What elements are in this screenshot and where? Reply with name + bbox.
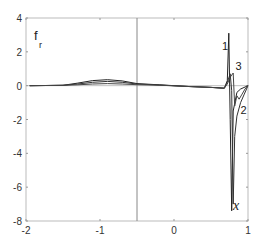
x-axis-label: x bbox=[232, 198, 240, 213]
x-tick-label: 1 bbox=[245, 225, 251, 236]
curve-label-1: 1 bbox=[222, 40, 228, 52]
y-tick-label: 2 bbox=[16, 47, 22, 58]
series-lines bbox=[30, 33, 248, 211]
curve-label-2: 2 bbox=[241, 104, 247, 116]
ticks: -2-101-8-6-4-2024 bbox=[13, 13, 251, 236]
y-tick-label: -6 bbox=[13, 182, 22, 193]
line-chart: -2-101-8-6-4-2024 132 f r x bbox=[0, 0, 262, 246]
curve-label-3: 3 bbox=[235, 60, 241, 72]
series-line-2 bbox=[30, 74, 248, 204]
y-axis-label: f bbox=[34, 28, 38, 43]
series-line-1 bbox=[30, 33, 248, 211]
y-tick-label: -8 bbox=[13, 216, 22, 227]
x-tick-label: -2 bbox=[22, 225, 31, 236]
y-tick-label: -4 bbox=[13, 148, 22, 159]
y-tick-label: -2 bbox=[13, 115, 22, 126]
series-line-3 bbox=[30, 73, 248, 106]
y-tick-label: 4 bbox=[16, 13, 22, 24]
y-tick-label: 0 bbox=[16, 81, 22, 92]
x-tick-label: 0 bbox=[171, 225, 177, 236]
y-axis-label-subscript: r bbox=[39, 40, 42, 50]
x-tick-label: -1 bbox=[96, 225, 105, 236]
